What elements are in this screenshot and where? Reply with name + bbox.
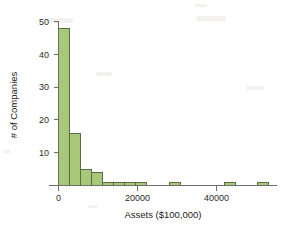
y-tick-label: 40 — [39, 50, 49, 60]
y-axis-title: # of Companies — [8, 71, 19, 138]
y-tick-label: 10 — [39, 148, 49, 158]
histogram-bar — [81, 169, 92, 185]
y-tick-label: 50 — [39, 17, 49, 27]
y-tick-label: 30 — [39, 82, 49, 92]
histogram-bar — [70, 133, 81, 185]
x-tick-label: 40000 — [204, 193, 229, 203]
x-tick-label: 20000 — [125, 193, 150, 203]
y-tick-label: 20 — [39, 115, 49, 125]
x-axis-title: Assets ($100,000) — [124, 209, 201, 220]
histogram-chart: 1020304050 02000040000 Assets ($100,000)… — [0, 0, 282, 228]
x-tick-label: 0 — [56, 193, 61, 203]
histogram-bar — [92, 172, 103, 185]
histogram-bar — [59, 28, 70, 185]
chart-canvas: 1020304050 02000040000 Assets ($100,000)… — [0, 0, 282, 228]
